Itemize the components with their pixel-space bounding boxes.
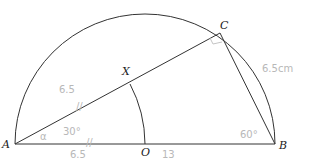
geometry-diagram: A B C O X 6.5 // α 30° // 6.5 13 6.5cm 6… [0, 0, 310, 162]
diagram-canvas: A B C O X 6.5 // α 30° // 6.5 13 6.5cm 6… [0, 0, 310, 162]
label-a: A [1, 138, 10, 151]
label-x: X [121, 65, 131, 78]
ob-length: 13 [162, 149, 175, 160]
label-o: O [141, 146, 150, 159]
tick-ax: // [76, 101, 83, 112]
angle-a: 30° [63, 126, 81, 137]
label-c: C [220, 19, 229, 32]
angle-a-symbol: α [40, 131, 47, 142]
semicircle-arc [15, 14, 275, 144]
ax-length: 6.5 [59, 84, 75, 95]
chord-ac [15, 33, 220, 144]
chord-cb [220, 33, 275, 144]
arc-ox [130, 84, 145, 144]
right-angle-mark [210, 38, 222, 44]
angle-b: 60° [240, 129, 258, 140]
bc-length: 6.5cm [262, 63, 293, 74]
tick-ao: // [86, 137, 93, 148]
label-b: B [278, 139, 287, 152]
ao-length: 6.5 [70, 149, 86, 160]
